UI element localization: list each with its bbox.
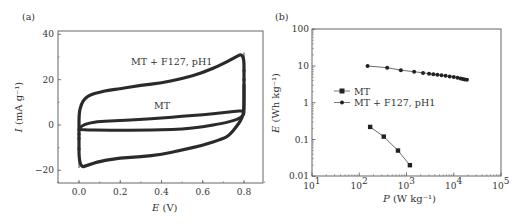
y-tick-label: 10 xyxy=(298,61,310,71)
vertex-dense-markers xyxy=(243,84,246,111)
vertex-marker xyxy=(77,147,80,150)
y-tick-label: 40 xyxy=(43,29,55,39)
panel-b-ragone-chart: (b) 1011021031041051001010.10.01 MT MT +… xyxy=(270,11,510,204)
panel-a-cv-chart: (a) 0.00.20.40.60.8−2002040 MT + F127, p… xyxy=(13,11,265,213)
y-tick-label: 0.01 xyxy=(289,171,309,181)
data-point-mt xyxy=(408,163,412,167)
x-tick-exponent: 1 xyxy=(315,176,321,186)
y-tick-label: 0 xyxy=(48,120,54,130)
legend-mt-label: MT xyxy=(354,86,371,97)
data-point-mt-f127 xyxy=(465,78,469,82)
cv-curve-mt xyxy=(79,111,244,130)
legend-f127-label: MT + F127, pH1 xyxy=(354,97,435,108)
annotation-mt-f127: MT + F127, pH1 xyxy=(131,56,212,67)
data-point-mt-f127 xyxy=(431,72,435,76)
panel-b-series xyxy=(366,64,469,167)
panel-a-label: (a) xyxy=(22,11,35,22)
x-tick-label: 0.8 xyxy=(237,187,252,197)
data-point-mt-f127 xyxy=(452,75,456,79)
x-tick-exponent: 3 xyxy=(409,176,415,186)
y-tick-label: 0.1 xyxy=(295,135,309,145)
data-point-mt xyxy=(382,134,386,138)
data-point-mt-f127 xyxy=(444,74,448,78)
x-tick-label: 10 xyxy=(303,181,315,191)
panel-a-y-axis-title: I (mA g⁻¹) xyxy=(13,82,24,134)
x-tick-exponent: 5 xyxy=(504,176,510,186)
panel-b-label: (b) xyxy=(275,11,289,22)
x-tick-label: 0.6 xyxy=(196,187,211,197)
vertex-marker xyxy=(77,137,80,140)
y-tick-label: 1 xyxy=(303,98,309,108)
data-point-mt-f127 xyxy=(385,66,389,70)
legend-f127-circle-marker-icon xyxy=(340,101,344,105)
vertex-marker xyxy=(242,78,245,81)
y-axis-unit: (Wh kg⁻¹) xyxy=(270,73,281,126)
x-axis-unit: (V) xyxy=(159,202,177,213)
data-point-mt xyxy=(396,148,400,152)
vertex-marker xyxy=(77,132,80,135)
data-point-mt-f127 xyxy=(435,73,439,77)
y-tick-label: 100 xyxy=(292,24,309,34)
y-tick-label: −20 xyxy=(35,165,54,175)
data-point-mt-f127 xyxy=(399,68,403,72)
x-tick-label: 10 xyxy=(398,181,410,191)
data-point-mt-f127 xyxy=(421,71,425,75)
x-tick-label: 10 xyxy=(492,181,504,191)
panel-b-x-axis-title: P (W kg⁻¹) xyxy=(382,193,436,204)
panel-b-y-axis-title: E (Wh kg⁻¹) xyxy=(270,73,281,134)
x-tick-label: 0.4 xyxy=(154,187,169,197)
data-point-mt xyxy=(368,125,372,129)
figure: (a) 0.00.20.40.60.8−2002040 MT + F127, p… xyxy=(0,0,531,224)
x-tick-label: 10 xyxy=(351,181,363,191)
panel-b-legend: MT MT + F127, pH1 xyxy=(334,86,435,109)
x-tick-exponent: 4 xyxy=(456,176,462,186)
y-axis-unit: (mA g⁻¹) xyxy=(13,82,24,129)
y-tick-label: 20 xyxy=(43,75,55,85)
x-tick-label: 0.0 xyxy=(72,187,87,197)
x-tick-exponent: 2 xyxy=(362,176,368,186)
panel-a-x-axis-title: E (V) xyxy=(151,202,178,213)
x-axis-unit: (W kg⁻¹) xyxy=(390,193,436,204)
series-line-mt xyxy=(370,127,410,165)
legend-mt-square-marker-icon xyxy=(340,89,345,94)
data-point-mt-f127 xyxy=(366,64,370,68)
annotation-mt: MT xyxy=(154,100,171,111)
data-point-mt-f127 xyxy=(412,70,416,74)
x-tick-label: 10 xyxy=(445,181,457,191)
vertex-marker xyxy=(242,69,245,72)
data-point-mt-f127 xyxy=(439,73,443,77)
data-point-mt-f127 xyxy=(448,74,452,78)
data-point-mt-f127 xyxy=(427,72,431,76)
x-tick-label: 0.2 xyxy=(113,187,127,197)
